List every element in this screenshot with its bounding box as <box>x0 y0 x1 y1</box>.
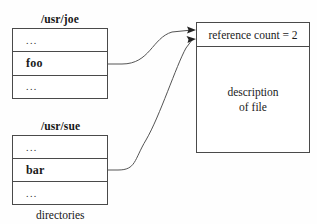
directory-label-sue: /usr/sue <box>41 120 80 132</box>
arrowhead-foo <box>187 27 196 34</box>
directory-table-sue: ... bar ... <box>12 135 108 205</box>
directory-entry-bar[interactable]: bar <box>13 159 107 182</box>
file-description-line-2: of file <box>239 100 267 114</box>
directory-entry-foo[interactable]: foo <box>13 52 107 75</box>
directory-table-joe: ... foo ... <box>12 28 108 99</box>
directory-entry-row[interactable]: ... <box>13 182 107 204</box>
directory-link-diagram: /usr/joe ... foo ... /usr/sue ... bar ..… <box>0 0 317 224</box>
file-description-body: description of file <box>197 47 309 152</box>
directory-label-joe: /usr/joe <box>41 13 79 25</box>
directory-entry-row[interactable]: ... <box>13 29 107 52</box>
file-description-line-1: description <box>227 85 278 99</box>
arrowhead-bar <box>187 36 197 43</box>
diagram-caption: directories <box>36 209 85 221</box>
file-description-block: reference count = 2 description of file <box>196 22 310 153</box>
directory-entry-row[interactable]: ... <box>13 76 107 98</box>
reference-count-field: reference count = 2 <box>197 23 309 47</box>
directory-entry-row[interactable]: ... <box>13 136 107 159</box>
